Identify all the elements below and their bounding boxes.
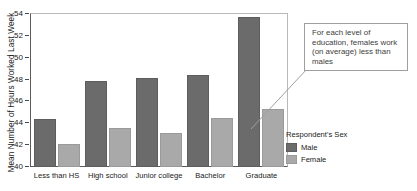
y-axis-tick-label: 40 xyxy=(14,162,23,172)
bar-female[interactable] xyxy=(160,133,182,167)
bar-male[interactable] xyxy=(238,17,260,167)
bar-group xyxy=(133,14,184,167)
legend-swatch-female-icon xyxy=(286,155,297,164)
legend-item-male[interactable]: Male xyxy=(286,143,411,152)
y-axis-tick-mark xyxy=(25,35,29,36)
y-axis-tick-label: 44 xyxy=(14,118,23,128)
y-axis-tick-mark xyxy=(25,57,29,58)
x-axis-category-label: Bachelor xyxy=(185,170,236,182)
y-axis-tick-mark xyxy=(25,100,29,101)
legend-title: Respondent's Sex xyxy=(286,130,411,139)
x-axis-category-label: High school xyxy=(82,170,133,182)
y-axis-tick-mark xyxy=(25,13,29,14)
y-axis-tick: 42 xyxy=(0,140,30,150)
y-axis-tick-label: 42 xyxy=(14,140,23,150)
legend-swatch-male-icon xyxy=(286,143,297,152)
bar-male[interactable] xyxy=(34,119,56,167)
y-axis-tick-mark xyxy=(25,166,29,167)
bar-male[interactable] xyxy=(85,81,107,167)
bar-female[interactable] xyxy=(211,118,233,167)
legend-item-female[interactable]: Female xyxy=(286,155,411,164)
y-axis-tick: 46 xyxy=(0,96,30,106)
y-axis-tick: 40 xyxy=(0,162,30,172)
y-axis-tick-label: 54 xyxy=(14,9,23,19)
x-axis-category-label: Less than HS xyxy=(31,170,82,182)
y-axis-tick-label: 48 xyxy=(14,75,23,85)
bar-female[interactable] xyxy=(262,109,284,167)
y-axis-tick: 54 xyxy=(0,9,30,19)
bar-group xyxy=(236,14,287,167)
callout-annotation-box: For each level of education, females wor… xyxy=(304,23,408,71)
y-axis-tick: 48 xyxy=(0,75,30,85)
bar-group xyxy=(185,14,236,167)
legend: Respondent's Sex Male Female xyxy=(286,130,411,164)
y-axis-tick-mark xyxy=(25,122,29,123)
y-axis-tick-label: 50 xyxy=(14,53,23,63)
y-axis-tick-mark xyxy=(25,144,29,145)
y-axis-tick: 52 xyxy=(0,31,30,41)
x-axis-labels: Less than HSHigh schoolJunior collegeBac… xyxy=(31,170,287,184)
bar-male[interactable] xyxy=(136,78,158,167)
y-axis-ticks: 4042444648505254 xyxy=(0,0,30,191)
legend-label-female: Female xyxy=(301,155,326,164)
callout-annotation-text: For each level of education, females wor… xyxy=(312,28,401,66)
bar-male[interactable] xyxy=(187,75,209,167)
y-axis-tick: 50 xyxy=(0,53,30,63)
y-axis-tick-label: 46 xyxy=(14,96,23,106)
bar-female[interactable] xyxy=(58,144,80,167)
y-axis-tick-label: 52 xyxy=(14,31,23,41)
x-axis-category-label: Junior college xyxy=(133,170,184,182)
x-axis-category-label: Graduate xyxy=(236,170,287,182)
bar-female[interactable] xyxy=(109,128,131,167)
y-axis-tick: 44 xyxy=(0,118,30,128)
bars-layer xyxy=(31,14,287,167)
bar-group xyxy=(82,14,133,167)
bar-group xyxy=(31,14,82,167)
y-axis-tick-mark xyxy=(25,79,29,80)
legend-label-male: Male xyxy=(301,143,317,152)
